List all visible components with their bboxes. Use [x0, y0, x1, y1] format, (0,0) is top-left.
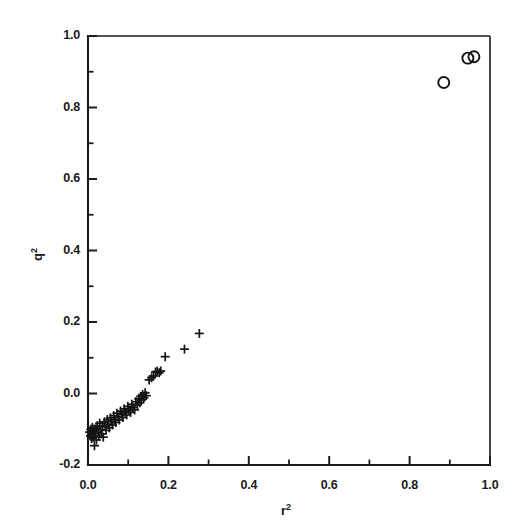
- x-tick-label: 0.2: [143, 478, 193, 492]
- x-tick-label: 0.4: [224, 478, 274, 492]
- series-circle-markers: [438, 51, 479, 88]
- y-tick-label: -0.2: [32, 457, 80, 471]
- plot-frame: [88, 36, 490, 465]
- series-plus-markers: [85, 329, 204, 450]
- y-tick-label: 1.0: [32, 28, 80, 42]
- scatter-plot-figure: 0.00.20.40.60.81.0 1.00.80.60.40.20.0-0.…: [0, 0, 523, 532]
- x-tick-label: 0.0: [63, 478, 113, 492]
- axis-ticks: [88, 36, 490, 465]
- x-tick-label: 1.0: [465, 478, 515, 492]
- y-tick-label: 0.8: [32, 100, 80, 114]
- x-tick-label: 0.6: [304, 478, 354, 492]
- data-markers: [85, 51, 479, 450]
- y-tick-label: 0.0: [32, 386, 80, 400]
- x-tick-label: 0.8: [385, 478, 435, 492]
- x-axis-title: r2: [281, 503, 291, 518]
- y-tick-label: 0.2: [32, 314, 80, 328]
- y-axis-title: q2: [30, 248, 45, 261]
- plot-canvas: [0, 0, 523, 532]
- y-tick-label: 0.6: [32, 171, 80, 185]
